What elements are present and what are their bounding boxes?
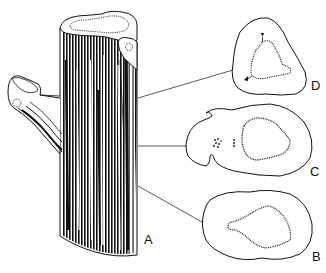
label-c: C (310, 165, 319, 178)
cross-section-d (232, 18, 306, 95)
figure: A B C D (0, 0, 326, 273)
label-b: B (312, 250, 321, 263)
cross-section-b (202, 190, 312, 259)
leader-line-b (138, 186, 202, 222)
diagram-svg (0, 0, 326, 273)
leader-line-d (138, 70, 233, 98)
label-a: A (144, 233, 153, 246)
stem-a (8, 11, 138, 256)
cross-section-c (186, 104, 312, 176)
label-d: D (311, 79, 320, 92)
